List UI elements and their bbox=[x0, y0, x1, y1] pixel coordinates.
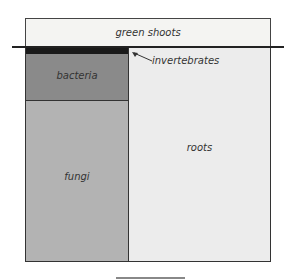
diagram-frame bbox=[25, 48, 271, 262]
green-shoots-label: green shoots bbox=[26, 27, 270, 38]
ground-line bbox=[12, 46, 284, 48]
invertebrates-label: invertebrates bbox=[152, 55, 219, 66]
green-shoots-region: green shoots bbox=[25, 18, 271, 48]
scale-bar bbox=[116, 277, 185, 279]
